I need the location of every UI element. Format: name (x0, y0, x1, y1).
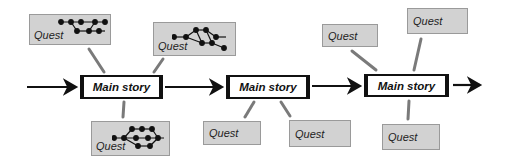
quest-graph-icon (57, 17, 109, 39)
main-story-label: Main story (93, 81, 151, 93)
main-story-label: Main story (378, 80, 436, 92)
main-story-box: Main story (80, 75, 163, 99)
quest-box: Quest (153, 22, 236, 56)
main-story-label: Main story (239, 81, 297, 93)
story-diagram: Quest Quest Quest Quest Quest Ques (0, 0, 507, 161)
quest-label: Quest (295, 128, 324, 140)
quest-box: Quest (91, 121, 170, 156)
quest-label: Quest (209, 127, 238, 139)
quest-box: Quest (203, 121, 261, 145)
quest-label: Quest (328, 30, 357, 42)
quest-box: Quest (322, 24, 378, 47)
main-story-box: Main story (364, 74, 449, 97)
quest-box: Quest (29, 14, 111, 45)
quest-label: Quest (158, 40, 187, 52)
quest-box: Quest (382, 124, 440, 150)
quest-label: Quest (413, 15, 442, 27)
quest-box: Quest (407, 8, 468, 34)
quest-label: Quest (388, 131, 417, 143)
quest-box: Quest (289, 120, 351, 147)
quest-label: Quest (96, 140, 125, 152)
quest-label: Quest (34, 29, 63, 41)
main-story-box: Main story (226, 75, 310, 99)
